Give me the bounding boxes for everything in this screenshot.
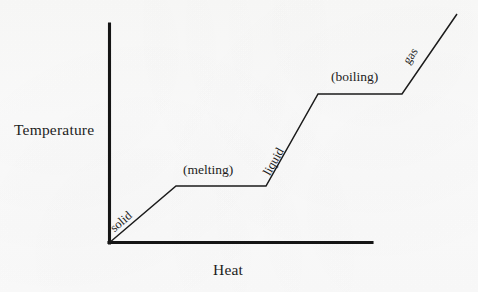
plot-canvas: [0, 0, 478, 292]
segment-label-melting: (melting): [183, 163, 233, 177]
heating-curve-figure: Temperature Heat solid (melting) liquid …: [0, 0, 478, 292]
y-axis-title: Temperature: [14, 122, 94, 138]
segment-label-boiling: (boiling): [331, 70, 378, 84]
x-axis-title: Heat: [213, 262, 243, 278]
heating-curve-line: [109, 14, 457, 243]
